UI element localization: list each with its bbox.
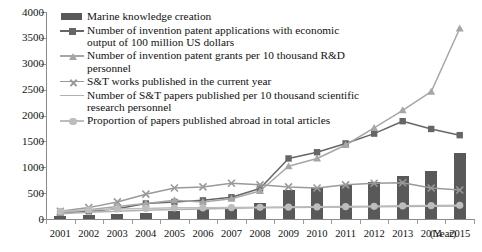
data-point-marker <box>456 25 464 32</box>
x-axis-tick-label: 2008 <box>246 228 274 239</box>
y-axis-tick-label: 3500 <box>22 32 44 43</box>
x-axis-tick <box>189 219 190 224</box>
x-axis-tick-label: 2011 <box>332 228 360 239</box>
data-point-marker <box>428 202 435 209</box>
y-axis-tick-label: 1500 <box>22 136 44 147</box>
data-point-marker <box>313 203 320 210</box>
data-point-marker <box>399 106 407 113</box>
legend-marker-circle-icon <box>60 114 84 127</box>
data-point-marker <box>285 203 292 210</box>
legend-item[interactable]: Proportion of papers published abroad in… <box>60 114 360 127</box>
legend-item[interactable]: Number of invention patent grants per 10… <box>60 49 360 73</box>
data-point-marker <box>427 88 435 95</box>
x-axis-tick-label: 2010 <box>303 228 331 239</box>
legend-item[interactable]: Number of S&T papers published per 10 th… <box>60 89 360 113</box>
legend-label: Marine knowledge creation <box>87 10 211 22</box>
chart-legend: Marine knowledge creationNumber of inven… <box>60 10 360 128</box>
legend-marker-triangle-icon <box>60 49 84 62</box>
y-axis-tick-label: 2000 <box>22 110 44 121</box>
legend-label: Number of invention patent grants per 10… <box>87 49 360 73</box>
legend-marker-cross-icon <box>60 75 84 88</box>
y-axis-tick-label: 500 <box>28 188 45 199</box>
data-point-marker <box>428 126 434 132</box>
data-point-marker <box>457 132 463 138</box>
x-axis-tick <box>46 219 47 224</box>
data-point-marker <box>370 124 378 131</box>
data-point-marker <box>57 208 64 215</box>
data-point-marker <box>371 203 378 210</box>
x-axis-title: (Year) <box>430 228 456 239</box>
x-axis-tick <box>217 219 218 224</box>
x-axis-tick <box>103 219 104 224</box>
legend-item[interactable]: Marine knowledge creation <box>60 10 360 23</box>
legend-marker-block-icon <box>60 10 84 23</box>
y-axis-tick-label: 2500 <box>22 84 44 95</box>
x-axis-tick <box>445 219 446 224</box>
y-axis-tick-label: 1000 <box>22 162 44 173</box>
data-point-marker <box>342 203 349 210</box>
legend-label: Number of invention patent applications … <box>87 24 360 48</box>
x-axis-tick-label: 2004 <box>132 228 160 239</box>
data-point-marker <box>371 130 377 136</box>
x-axis-tick-label: 2006 <box>189 228 217 239</box>
x-axis-tick <box>474 219 475 224</box>
data-point-marker <box>85 206 92 213</box>
data-point-marker <box>228 204 235 211</box>
data-point-marker <box>114 205 121 212</box>
y-axis-tick-label: 3000 <box>22 58 44 69</box>
x-axis-tick <box>75 219 76 224</box>
x-axis-tick-label: 2007 <box>217 228 245 239</box>
legend-marker-square-icon <box>60 24 84 37</box>
data-point-marker <box>256 204 263 211</box>
x-axis-tick-label: 2002 <box>75 228 103 239</box>
legend-label: Proportion of papers published abroad in… <box>87 114 330 126</box>
data-point-marker <box>399 118 405 124</box>
data-point-marker <box>171 204 178 211</box>
data-point-marker <box>285 155 291 161</box>
x-axis-tick-label: 2013 <box>389 228 417 239</box>
legend-label: S&T works published in the current year <box>87 75 271 87</box>
data-point-marker <box>142 205 149 212</box>
y-axis-tick-label: 0 <box>39 214 45 225</box>
data-point-marker <box>456 202 463 209</box>
x-axis-tick <box>417 219 418 224</box>
x-axis-tick <box>388 219 389 224</box>
x-axis-tick <box>303 219 304 224</box>
data-point-marker <box>199 204 206 211</box>
x-axis-tick <box>132 219 133 224</box>
x-axis-line <box>46 219 474 220</box>
data-point-marker <box>399 202 406 209</box>
x-axis-tick-label: 2003 <box>103 228 131 239</box>
x-axis-tick-label: 2012 <box>360 228 388 239</box>
x-axis-tick <box>274 219 275 224</box>
x-axis-tick-label: 2005 <box>160 228 188 239</box>
legend-item[interactable]: S&T works published in the current year <box>60 75 360 88</box>
legend-marker-line-icon <box>60 89 84 102</box>
legend-label: Number of S&T papers published per 10 th… <box>87 89 360 113</box>
x-axis-tick-label: 2009 <box>275 228 303 239</box>
legend-item[interactable]: Number of invention patent applications … <box>60 24 360 48</box>
y-axis-tick-label: 4000 <box>22 7 44 18</box>
x-axis-tick-label: 2001 <box>46 228 74 239</box>
chart-container: 40003500300025002000150010005000 2001200… <box>0 0 482 252</box>
x-axis-tick <box>246 219 247 224</box>
x-axis-tick <box>160 219 161 224</box>
x-axis-tick <box>331 219 332 224</box>
x-axis-tick <box>360 219 361 224</box>
